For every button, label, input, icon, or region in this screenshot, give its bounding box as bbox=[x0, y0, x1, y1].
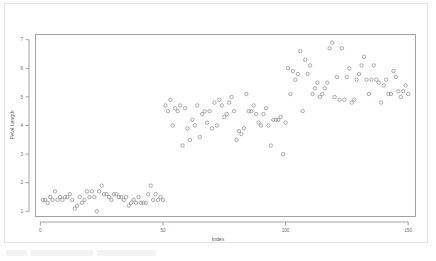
data-point bbox=[227, 101, 230, 104]
data-point bbox=[210, 127, 213, 130]
data-point bbox=[348, 67, 351, 70]
data-point bbox=[289, 92, 292, 95]
data-point bbox=[343, 98, 346, 101]
data-point bbox=[151, 198, 154, 201]
data-point bbox=[389, 92, 392, 95]
x-axis: 050100150 bbox=[39, 222, 412, 233]
data-point bbox=[235, 138, 238, 141]
data-point bbox=[147, 192, 150, 195]
data-point bbox=[328, 47, 331, 50]
data-point bbox=[406, 92, 409, 95]
data-point bbox=[171, 124, 174, 127]
data-point bbox=[198, 135, 201, 138]
data-point bbox=[156, 198, 159, 201]
data-point bbox=[100, 184, 103, 187]
data-point bbox=[353, 98, 356, 101]
data-point bbox=[286, 67, 289, 70]
data-point bbox=[215, 124, 218, 127]
data-point bbox=[149, 184, 152, 187]
x-axis-title: Index bbox=[212, 236, 225, 242]
data-point bbox=[335, 75, 338, 78]
data-point bbox=[181, 144, 184, 147]
data-point bbox=[318, 95, 321, 98]
x-tick-label: 0 bbox=[39, 228, 42, 233]
data-point bbox=[58, 195, 61, 198]
data-point bbox=[340, 47, 343, 50]
data-point bbox=[372, 64, 375, 67]
data-point bbox=[98, 190, 101, 193]
data-point bbox=[78, 195, 81, 198]
data-point bbox=[80, 201, 83, 204]
data-point bbox=[218, 98, 221, 101]
data-point bbox=[51, 198, 54, 201]
scatter-plot: 050100150 1234567 Index Petal.Length bbox=[0, 0, 436, 261]
data-point bbox=[301, 109, 304, 112]
data-point bbox=[277, 118, 280, 121]
data-point bbox=[127, 204, 130, 207]
data-point bbox=[365, 78, 368, 81]
data-point bbox=[125, 195, 128, 198]
data-point bbox=[188, 138, 191, 141]
data-point bbox=[279, 115, 282, 118]
data-point bbox=[370, 78, 373, 81]
data-point bbox=[402, 89, 405, 92]
data-point bbox=[245, 92, 248, 95]
data-point bbox=[105, 192, 108, 195]
y-tick-label: 1 bbox=[20, 209, 23, 214]
data-point bbox=[306, 72, 309, 75]
data-point bbox=[257, 121, 260, 124]
data-point bbox=[284, 121, 287, 124]
data-point bbox=[262, 112, 265, 115]
data-point bbox=[291, 69, 294, 72]
data-point bbox=[44, 198, 47, 201]
data-point bbox=[88, 195, 91, 198]
data-point bbox=[308, 64, 311, 67]
data-point bbox=[164, 104, 167, 107]
x-tick-label: 50 bbox=[160, 228, 166, 233]
data-point bbox=[338, 98, 341, 101]
data-point bbox=[90, 190, 93, 193]
data-point bbox=[166, 109, 169, 112]
data-point bbox=[311, 92, 314, 95]
data-point bbox=[225, 112, 228, 115]
y-tick-label: 7 bbox=[20, 37, 23, 42]
data-point bbox=[250, 109, 253, 112]
data-point bbox=[161, 198, 164, 201]
data-point bbox=[299, 49, 302, 52]
data-point bbox=[321, 92, 324, 95]
data-point bbox=[122, 198, 125, 201]
data-point bbox=[169, 98, 172, 101]
data-point bbox=[232, 109, 235, 112]
data-point bbox=[223, 115, 226, 118]
y-tick-label: 2 bbox=[20, 180, 23, 185]
data-point bbox=[191, 118, 194, 121]
data-point bbox=[193, 124, 196, 127]
data-point bbox=[107, 195, 110, 198]
data-point bbox=[377, 81, 380, 84]
data-point bbox=[176, 109, 179, 112]
data-point bbox=[46, 201, 49, 204]
data-points bbox=[41, 41, 410, 213]
data-point bbox=[242, 127, 245, 130]
y-axis: 1234567 bbox=[20, 37, 29, 214]
data-point bbox=[230, 95, 233, 98]
data-point bbox=[357, 72, 360, 75]
data-point bbox=[330, 41, 333, 44]
data-point bbox=[375, 78, 378, 81]
data-point bbox=[254, 112, 257, 115]
data-point bbox=[66, 195, 69, 198]
data-point bbox=[399, 95, 402, 98]
data-point bbox=[93, 195, 96, 198]
data-point bbox=[355, 78, 358, 81]
data-point bbox=[154, 192, 157, 195]
data-point bbox=[137, 195, 140, 198]
data-point bbox=[208, 109, 211, 112]
data-point bbox=[404, 84, 407, 87]
data-point bbox=[394, 75, 397, 78]
data-point bbox=[367, 92, 370, 95]
data-point bbox=[313, 87, 316, 90]
data-point bbox=[115, 192, 118, 195]
data-point bbox=[196, 104, 199, 107]
data-point bbox=[95, 210, 98, 213]
data-point bbox=[326, 81, 329, 84]
